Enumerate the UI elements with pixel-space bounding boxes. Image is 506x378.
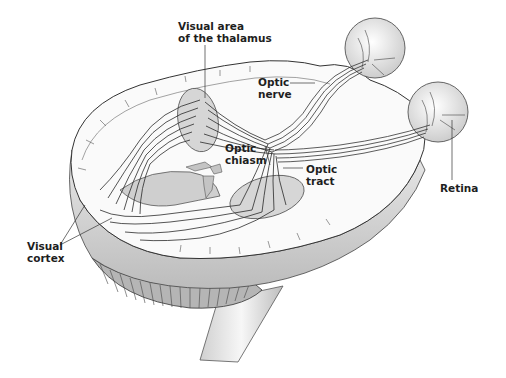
label-optic-chiasm: Optic chiasm bbox=[225, 142, 267, 166]
label-optic-nerve: Optic nerve bbox=[258, 76, 292, 100]
label-optic-nerve-line1: Optic bbox=[258, 76, 292, 88]
label-visual-cortex: Visual cortex bbox=[27, 240, 65, 264]
label-thalamus-line1: Visual area bbox=[178, 20, 272, 32]
label-thalamus: Visual area of the thalamus bbox=[178, 20, 272, 44]
label-retina: Retina bbox=[440, 182, 478, 194]
label-optic-chiasm-line1: Optic bbox=[225, 142, 267, 154]
eye-lower bbox=[408, 82, 468, 142]
label-optic-chiasm-line2: chiasm bbox=[225, 154, 267, 166]
label-retina-line1: Retina bbox=[440, 182, 478, 194]
label-optic-tract-line2: tract bbox=[306, 175, 337, 187]
label-optic-tract-line1: Optic bbox=[306, 163, 337, 175]
label-visual-cortex-line1: Visual bbox=[27, 240, 65, 252]
label-visual-cortex-line2: cortex bbox=[27, 252, 65, 264]
label-optic-tract: Optic tract bbox=[306, 163, 337, 187]
label-thalamus-line2: of the thalamus bbox=[178, 32, 272, 44]
brain-illustration bbox=[0, 0, 506, 378]
label-optic-nerve-line2: nerve bbox=[258, 88, 292, 100]
visual-pathway-diagram: Visual area of the thalamus Optic nerve … bbox=[0, 0, 506, 378]
